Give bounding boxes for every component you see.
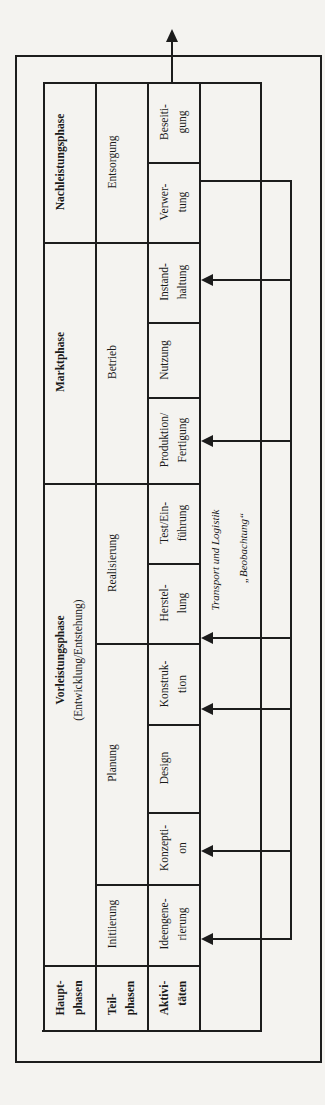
col-divider-3 <box>199 82 201 1032</box>
activity-konstruktion: Konstruk- tion <box>155 661 191 708</box>
activity-nutzung: Nutzung <box>155 340 173 380</box>
main-phase-markt: Marktphase <box>51 332 69 392</box>
feedback-line-konstruktion <box>210 708 292 710</box>
row-line-plan-init <box>95 884 201 886</box>
outer-frame-left <box>15 55 17 1063</box>
feedback-line-produktion <box>210 440 292 442</box>
activity-ideengenerierung: Ideengene- rierung <box>155 898 191 949</box>
row-line-test-herst <box>147 563 201 565</box>
arrow-left-icon <box>201 274 213 286</box>
feedback-line-ideengenerierung <box>210 938 292 940</box>
arrow-left-icon <box>201 845 213 857</box>
feedback-vertical-line <box>290 180 292 940</box>
outer-frame-top <box>15 55 322 57</box>
feedback-line-herstellung <box>210 637 292 639</box>
feedback-source-line <box>201 180 292 182</box>
row-line-header <box>43 965 201 967</box>
activity-produktion-fertigung: Produktion/ Fertigung <box>155 413 191 467</box>
table-right <box>260 82 262 1032</box>
col-divider-2 <box>147 82 149 1032</box>
row-line-nutz-prod <box>147 397 201 399</box>
sub-phase-planung: Planung <box>103 744 121 782</box>
sub-phase-realisierung: Realisierung <box>103 534 121 592</box>
sub-phase-betrieb: Betrieb <box>103 345 121 379</box>
outer-frame-right <box>320 55 322 1063</box>
activity-verwertung: Verwer- tung <box>155 184 191 221</box>
main-phase-vorleistung: Vorleistungsphase (Entwicklung/Entstehun… <box>51 599 87 720</box>
row-line-real-plan <box>95 643 201 645</box>
feedback-label-transport: Transport und Logistik <box>206 510 224 611</box>
feedback-label-beobachtung: „Beobachtung“ <box>234 513 252 583</box>
col-divider-1 <box>95 82 97 1032</box>
activity-design: Design <box>155 752 173 785</box>
activity-herstellung: Herstel- lung <box>155 584 191 621</box>
feedback-line-konzeption <box>210 850 292 852</box>
table-bottom <box>42 1030 260 1032</box>
sub-phase-entsorgung: Entsorgung <box>103 136 121 189</box>
table-left <box>43 82 45 1032</box>
arrow-left-icon <box>201 632 213 644</box>
row-header-sub-phases: Teil- phasen <box>103 981 139 1016</box>
row-line-design-konz <box>147 812 201 814</box>
activity-beseitigung: Beseiti- gung <box>155 104 191 140</box>
row-header-activities: Aktivi- täten <box>155 981 191 1016</box>
activity-test-einfuehrung: Test/Ein- führung <box>155 502 191 544</box>
exit-arrow-shaft <box>171 40 173 83</box>
arrow-up-icon <box>166 29 178 42</box>
row-line-konstr-design <box>147 724 201 726</box>
table-top <box>43 82 262 84</box>
activity-konzeption: Konzepti- on <box>155 825 191 871</box>
row-line-markt-vor <box>43 483 201 485</box>
row-line-inst-nutz <box>147 322 201 324</box>
arrow-left-icon <box>201 435 213 447</box>
feedback-line-instandhaltung <box>210 279 292 281</box>
arrow-left-icon <box>201 933 213 945</box>
main-phase-nachleistung: Nachleistungsphase <box>51 114 69 211</box>
row-line-nach-markt <box>43 242 201 244</box>
row-header-main-phases: Haupt- phasen <box>51 980 87 1015</box>
sub-phase-initiierung: Initiierung <box>103 900 121 949</box>
outer-frame-bottom <box>15 1061 320 1063</box>
activity-instandhaltung: Instand- haltung <box>155 263 191 301</box>
row-line-beseit-verw <box>147 162 201 164</box>
arrow-left-icon <box>201 703 213 715</box>
